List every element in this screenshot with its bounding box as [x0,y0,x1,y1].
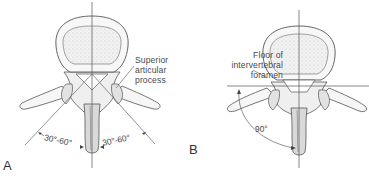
label-line-3: process [135,75,168,85]
vertebra-illustration-b [185,0,369,178]
panel-a: Superior articular process 30°-60° 30°-6… [0,0,185,178]
superior-articular-process-label: Superior articular process [135,55,168,85]
label-line-3: foramen [217,70,283,80]
panel-letter-b: B [189,142,198,157]
label-line-2: intervertebral [217,60,283,70]
vertebra-illustration-a [0,0,185,178]
label-line-1: Superior [135,55,168,65]
label-line-1: Floor of [217,50,283,60]
angle-90-label: 90° [255,124,268,134]
panel-letter-a: A [3,158,12,173]
floor-intervertebral-foramen-label: Floor of intervertebral foramen [217,50,283,80]
panel-b: Floor of intervertebral foramen 90° B [185,0,369,178]
label-line-2: articular [135,65,168,75]
